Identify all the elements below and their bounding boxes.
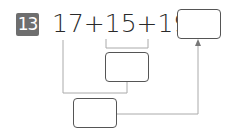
arrow-up-icon (195, 39, 201, 46)
answer-box[interactable] (177, 9, 221, 39)
intermediate-sum-box[interactable] (105, 52, 149, 82)
total-sum-box[interactable] (73, 98, 117, 128)
